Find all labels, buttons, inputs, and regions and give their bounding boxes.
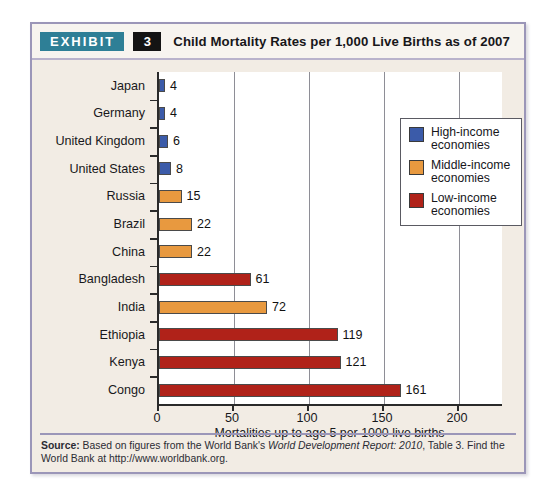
y-tick	[150, 293, 157, 295]
bar-germany[interactable]	[159, 107, 165, 120]
bar-value-label: 22	[197, 245, 211, 259]
footer-divider	[40, 433, 516, 435]
y-label-united-states: United States	[32, 155, 152, 183]
bar-ethiopia[interactable]	[159, 328, 338, 341]
bar-russia[interactable]	[159, 190, 182, 203]
bar-row[interactable]: 119	[159, 321, 502, 349]
bar-value-label: 6	[173, 134, 180, 148]
y-tick	[150, 238, 157, 240]
high-income-swatch	[409, 127, 424, 142]
y-tick	[150, 266, 157, 268]
bar-value-label: 22	[197, 217, 211, 231]
y-tick	[150, 183, 157, 185]
y-label-bangladesh: Bangladesh	[32, 266, 152, 294]
bar-value-label: 61	[256, 272, 270, 286]
legend-label: Low-income economies	[431, 192, 513, 219]
source-report-title: World Development Report: 2010	[268, 440, 422, 451]
y-label-ethiopia: Ethiopia	[32, 321, 152, 349]
y-tick	[150, 155, 157, 157]
middle-income-swatch	[409, 160, 424, 175]
y-axis-labels: JapanGermanyUnited KingdomUnited StatesR…	[32, 72, 152, 404]
bar-kenya[interactable]	[159, 356, 341, 369]
bar-row[interactable]: 161	[159, 376, 502, 404]
bar-value-label: 119	[343, 328, 363, 342]
low-income-swatch	[409, 193, 424, 208]
y-tick	[150, 100, 157, 102]
bar-japan[interactable]	[159, 79, 165, 92]
bar-brazil[interactable]	[159, 218, 192, 231]
exhibit-number-badge: 3	[133, 32, 161, 51]
y-tick	[150, 321, 157, 323]
bar-congo[interactable]	[159, 384, 401, 397]
y-label-germany: Germany	[32, 100, 152, 128]
bar-value-label: 4	[170, 79, 177, 93]
bar-value-label: 72	[272, 300, 286, 314]
y-tick	[150, 376, 157, 378]
bar-united-states[interactable]	[159, 162, 171, 175]
chart-body: JapanGermanyUnited KingdomUnited StatesR…	[32, 60, 524, 433]
legend-item[interactable]: Middle-income economies	[409, 159, 513, 186]
bar-value-label: 8	[176, 162, 183, 176]
bar-row[interactable]: 4	[159, 72, 502, 100]
bar-row[interactable]: 22	[159, 238, 502, 266]
bar-value-label: 4	[170, 106, 177, 120]
x-tick-label-100: 100	[296, 411, 317, 425]
legend-label: Middle-income economies	[431, 159, 513, 186]
legend-item[interactable]: Low-income economies	[409, 192, 513, 219]
exhibit-header: EXHIBIT 3 Child Mortality Rates per 1,00…	[32, 24, 524, 58]
bar-china[interactable]	[159, 245, 192, 258]
exhibit-card: EXHIBIT 3 Child Mortality Rates per 1,00…	[30, 22, 526, 474]
y-tick	[150, 127, 157, 129]
y-tick	[150, 210, 157, 212]
bar-value-label: 161	[406, 383, 427, 397]
bar-value-label: 121	[346, 355, 367, 369]
bar-row[interactable]: 121	[159, 349, 502, 377]
bar-bangladesh[interactable]	[159, 273, 251, 286]
legend-label: High-income economies	[431, 126, 513, 153]
x-tick-label-150: 150	[371, 411, 392, 425]
legend-item[interactable]: High-income economies	[409, 126, 513, 153]
source-label: Source:	[41, 440, 80, 451]
bar-india[interactable]	[159, 301, 267, 314]
exhibit-tag-label: EXHIBIT	[40, 32, 124, 51]
bar-row[interactable]: 72	[159, 293, 502, 321]
x-tick-label-50: 50	[225, 411, 239, 425]
x-tick-label-0: 0	[153, 411, 160, 425]
y-label-kenya: Kenya	[32, 349, 152, 377]
y-label-congo: Congo	[32, 376, 152, 404]
y-label-russia: Russia	[32, 183, 152, 211]
y-label-china: China	[32, 238, 152, 266]
y-label-united-kingdom: United Kingdom	[32, 127, 152, 155]
bar-value-label: 15	[187, 189, 201, 203]
bar-row[interactable]: 61	[159, 266, 502, 294]
y-label-japan: Japan	[32, 72, 152, 100]
y-tick	[150, 349, 157, 351]
y-label-brazil: Brazil	[32, 210, 152, 238]
bar-united-kingdom[interactable]	[159, 135, 168, 148]
x-tick-label-200: 200	[446, 411, 467, 425]
exhibit-title: Child Mortality Rates per 1,000 Live Bir…	[173, 34, 510, 49]
y-label-india: India	[32, 293, 152, 321]
chart-legend: High-income economiesMiddle-income econo…	[400, 118, 522, 226]
source-text-before: Based on figures from the World Bank's	[80, 440, 268, 451]
source-note: Source: Based on figures from the World …	[41, 439, 515, 465]
